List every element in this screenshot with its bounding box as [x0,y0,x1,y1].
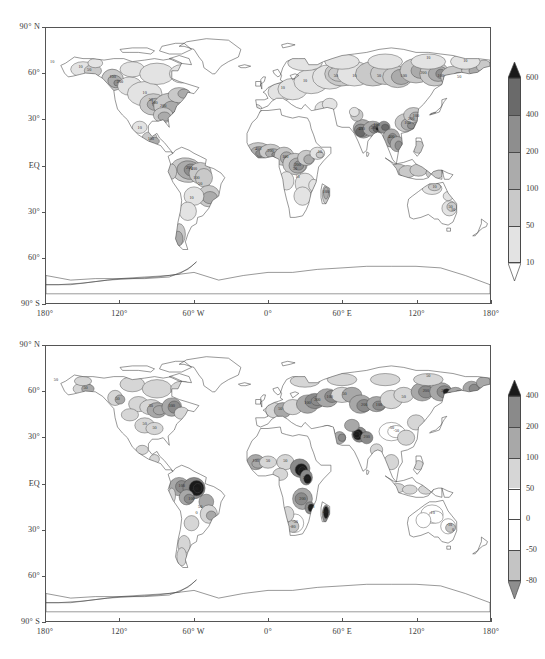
x-tick-mark [417,618,418,622]
svg-text:400: 400 [255,146,261,151]
svg-text:100: 100 [179,483,185,488]
y-tick-label: 90° S [0,299,40,308]
x-tick-label: 60° W [172,309,216,318]
svg-text:10: 10 [352,73,356,78]
x-tick-mark [417,300,418,304]
x-tick-label: 60° E [320,309,364,318]
x-tick-label: 180° [23,309,67,318]
x-tick-label: 120° [395,309,439,318]
y-tick-mark [42,212,46,213]
svg-text:200: 200 [361,402,367,407]
svg-text:400: 400 [355,431,361,436]
x-tick-mark [342,300,343,304]
svg-text:0: 0 [195,510,197,515]
y-tick-mark [42,530,46,531]
colorbar-segment [508,78,521,115]
x-tick-mark [342,618,343,622]
y-tick-label: 30° [0,207,40,216]
x-tick-label: 180° [469,309,513,318]
y-tick-label: 60° [0,253,40,262]
svg-text:200: 200 [160,103,166,108]
svg-text:200: 200 [117,79,123,84]
colorbar-segment [508,189,521,226]
colorbar-top[interactable] [508,78,521,263]
y-tick-mark [42,119,46,120]
svg-text:10: 10 [138,125,142,130]
svg-text:10: 10 [281,85,285,90]
colorbar-top-arrow [508,380,521,396]
x-tick-label: 60° E [320,627,364,636]
y-tick-label: 30° [0,525,40,534]
colorbar-tick-label: 400 [526,110,538,119]
svg-text:50: 50 [283,458,287,463]
colorbar-tick-label: 400 [526,391,538,400]
colorbar-tick-label: 200 [526,147,538,156]
x-tick-mark [194,618,195,622]
svg-text:-50: -50 [389,425,395,430]
svg-text:400: 400 [388,134,394,139]
svg-text:10: 10 [426,55,430,60]
svg-text:400: 400 [308,504,314,509]
x-tick-label: 120° [97,309,141,318]
svg-text:100: 100 [373,122,379,127]
svg-text:100: 100 [376,402,382,407]
y-tick-label: 60° [0,68,40,77]
world-map-top: 1050100200105010020010100200400100501040… [46,28,490,303]
svg-text:400: 400 [192,486,198,491]
svg-text:50: 50 [377,73,381,78]
svg-text:-10: -10 [429,510,435,515]
y-tick-label: 30° [0,432,40,441]
y-tick-label: 90° N [0,340,40,349]
colorbar-tick-label: 10 [526,258,534,267]
x-tick-mark [45,300,46,304]
x-tick-label: 0° [246,309,290,318]
svg-text:10: 10 [451,207,455,212]
map-frame-bottom: 5050501005050100400100500100505040020020… [45,345,491,622]
colorbar-top-arrow [508,62,521,78]
x-tick-mark [194,300,195,304]
y-tick-mark [42,391,46,392]
svg-text:100: 100 [282,154,288,159]
x-tick-label: 0° [246,627,290,636]
colorbar-tick-label: 100 [526,184,538,193]
map-frame-top: 1050100200105010020010100200400100501040… [45,27,491,304]
svg-text:200: 200 [364,434,370,439]
y-tick-mark [42,258,46,259]
x-tick-label: 180° [469,627,513,636]
y-tick-mark [42,166,46,167]
y-tick-label: 90° N [0,22,40,31]
svg-text:400: 400 [298,466,304,471]
svg-text:100: 100 [151,100,157,105]
svg-text:400: 400 [323,509,329,514]
svg-text:10: 10 [78,64,82,69]
colorbar-segment [508,115,521,152]
colorbar-tick-label: 50 [526,221,534,230]
svg-text:50: 50 [87,67,91,72]
svg-text:10: 10 [432,184,436,189]
svg-text:100: 100 [188,496,194,501]
colorbar-tick-label: 100 [526,453,538,462]
svg-text:50: 50 [278,406,282,411]
svg-text:50: 50 [334,73,338,78]
colorbar-tick-label: 200 [526,422,538,431]
x-tick-label: 120° [97,627,141,636]
colorbar-segment [508,489,521,520]
colorbar-bottom-arrow [508,581,521,599]
svg-text:200: 200 [314,397,320,402]
svg-text:10: 10 [189,195,193,200]
colorbar-bottom[interactable] [508,396,521,581]
y-tick-mark [42,345,46,346]
svg-text:100: 100 [109,74,115,79]
colorbar-segment [508,396,521,427]
svg-text:50: 50 [457,74,461,79]
y-tick-label: 60° [0,386,40,395]
colorbar-top-body [508,78,521,263]
colorbar-tick-label: 0 [526,514,530,523]
svg-text:200: 200 [441,388,447,393]
y-tick-mark [42,27,46,28]
colorbar-segment [508,550,521,581]
y-tick-mark [42,484,46,485]
svg-text:50: 50 [198,181,202,186]
svg-text:400: 400 [191,166,197,171]
colorbar-segment [508,226,521,263]
